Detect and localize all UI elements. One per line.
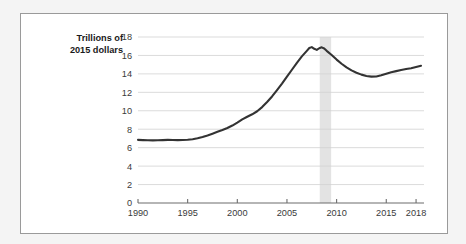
x-tick-label-2000: 2000 bbox=[227, 208, 247, 218]
recession-band bbox=[320, 37, 331, 203]
x-axis bbox=[138, 199, 424, 203]
y-tick-label-2: 2 bbox=[127, 180, 132, 190]
x-tick-label-2010: 2010 bbox=[326, 208, 346, 218]
y-tick-label-10: 10 bbox=[122, 106, 132, 116]
recession-band-group bbox=[320, 37, 331, 203]
figure-root: 024681012141618 199019952000200520102015… bbox=[0, 0, 466, 244]
y-tick-label-18: 18 bbox=[122, 32, 132, 42]
x-tick-label-1990: 1990 bbox=[128, 208, 148, 218]
line-chart: 024681012141618 199019952000200520102015… bbox=[0, 0, 466, 244]
y-tick-label-0: 0 bbox=[127, 198, 132, 208]
x-tick-label-1995: 1995 bbox=[177, 208, 197, 218]
x-tick-label-2015: 2015 bbox=[376, 208, 396, 218]
y-tick-label-6: 6 bbox=[127, 143, 132, 153]
series-line-trillions-of-2015-dollars bbox=[138, 47, 421, 140]
gridlines bbox=[138, 37, 424, 185]
x-tick-label-2018: 2018 bbox=[406, 208, 426, 218]
y-axis-label-line1: Trillions of bbox=[77, 33, 124, 43]
series-group bbox=[138, 47, 421, 140]
y-tick-labels: 024681012141618 bbox=[122, 32, 132, 208]
x-tick-label-2005: 2005 bbox=[277, 208, 297, 218]
y-axis-label-line2: 2015 dollars bbox=[70, 45, 123, 55]
y-tick-label-4: 4 bbox=[127, 162, 132, 172]
y-tick-label-14: 14 bbox=[122, 69, 132, 79]
y-tick-label-12: 12 bbox=[122, 88, 132, 98]
y-tick-label-16: 16 bbox=[122, 51, 132, 61]
y-tick-label-8: 8 bbox=[127, 125, 132, 135]
x-tick-labels: 1990199520002005201020152018 bbox=[128, 208, 427, 218]
